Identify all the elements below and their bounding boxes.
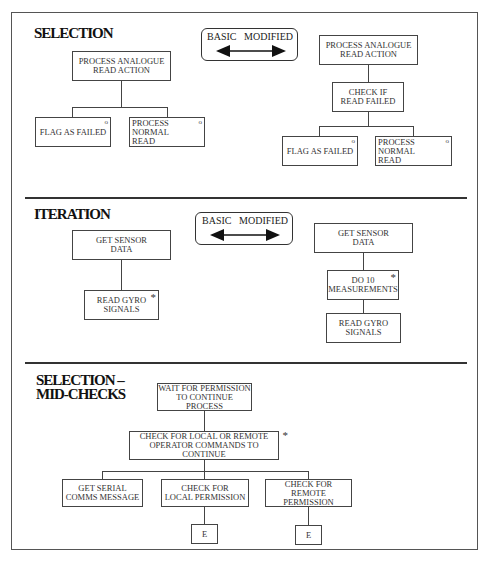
connector <box>102 471 103 479</box>
box-label: READ GYRO SIGNALS <box>97 296 146 314</box>
box-label: GET SERIAL COMMS MESSAGE <box>66 484 139 502</box>
legend-basic-label: BASIC <box>202 215 231 226</box>
connector <box>368 112 369 126</box>
connector <box>308 471 309 479</box>
connector <box>204 460 205 471</box>
box-label: PROCESS NORMAL READ <box>132 119 204 146</box>
diagram-frame <box>11 12 478 550</box>
end-marker-remote-box: E <box>295 525 322 545</box>
box-label: GET SENSOR DATA <box>338 229 389 247</box>
iteration-asterisk-icon: * <box>283 430 289 440</box>
basic-modified-legend: BASIC MODIFIED <box>195 212 293 245</box>
connector <box>121 81 122 107</box>
box-label: CHECK FOR LOCAL OR REMOTE OPERATOR COMMA… <box>130 432 278 459</box>
modified-read-gyro-box: READ GYRO SIGNALS <box>326 313 401 343</box>
double-arrow-icon <box>210 229 280 241</box>
section-divider <box>25 197 467 199</box>
midchecks-heading-line2: MID-CHECKS <box>36 387 125 402</box>
check-remote-permission-box: CHECK FOR REMOTE PERMISSION <box>265 479 352 507</box>
box-label: E <box>306 531 311 540</box>
basic-get-sensor-box: GET SENSOR DATA <box>72 230 171 260</box>
connector <box>72 107 73 117</box>
iteration-asterisk-icon: * <box>391 272 397 282</box>
check-operator-commands-box: CHECK FOR LOCAL OR REMOTE OPERATOR COMMA… <box>129 431 279 460</box>
connector <box>204 507 205 524</box>
selection-circle-icon: o <box>352 138 356 145</box>
box-label: READ GYRO SIGNALS <box>339 319 388 337</box>
section-divider <box>25 362 467 364</box>
modified-get-sensor-box: GET SENSOR DATA <box>314 223 413 253</box>
connector <box>167 107 168 117</box>
modified-process-analogue-box: PROCESS ANALOGUE READ ACTION <box>319 35 418 65</box>
connector <box>204 471 205 479</box>
box-label: E <box>202 530 207 539</box>
connector <box>363 253 364 270</box>
connector <box>319 126 414 127</box>
basic-modified-legend: BASIC MODIFIED <box>201 28 298 61</box>
connector <box>368 65 369 82</box>
selection-heading: SELECTION <box>34 26 113 41</box>
legend-modified-label: MODIFIED <box>244 31 293 42</box>
selection-circle-icon: o <box>105 119 109 126</box>
connector <box>204 411 205 431</box>
double-arrow-icon <box>216 45 286 57</box>
modified-process-normal-box: PROCESS NORMAL READo <box>375 136 452 166</box>
box-label: PROCESS ANALOGUE READ ACTION <box>79 57 165 75</box>
connector <box>102 471 309 472</box>
connector <box>72 107 168 108</box>
selection-circle-icon: o <box>199 119 203 126</box>
wait-for-permission-box: WAIT FOR PERMISSION TO CONTINUE PROCESS <box>157 383 252 411</box>
box-label: FLAG AS FAILED <box>40 128 106 137</box>
check-local-permission-box: CHECK FOR LOCAL PERMISSION <box>161 479 249 507</box>
box-label: WAIT FOR PERMISSION TO CONTINUE PROCESS <box>158 384 251 411</box>
basic-read-gyro-box: READ GYRO SIGNALS* <box>84 290 159 320</box>
box-label: DO 10 MEASUREMENTS <box>328 276 397 294</box>
connector <box>308 507 309 525</box>
connector <box>363 300 364 313</box>
box-label: CHECK FOR LOCAL PERMISSION <box>165 484 246 502</box>
basic-process-analogue-box: PROCESS ANALOGUE READ ACTION <box>72 51 171 81</box>
get-serial-comms-box: GET SERIAL COMMS MESSAGE <box>62 479 143 507</box>
modified-check-read-failed-box: CHECK IF READ FAILED <box>332 82 404 112</box>
modified-flag-failed-box: FLAG AS FAILEDo <box>282 136 358 166</box>
basic-flag-failed-box: FLAG AS FAILEDo <box>35 117 111 147</box>
iteration-heading: ITERATION <box>34 207 110 222</box>
box-label: CHECK IF READ FAILED <box>341 88 396 106</box>
basic-process-normal-box: PROCESS NORMAL READo <box>129 117 205 147</box>
box-label: GET SENSOR DATA <box>96 236 147 254</box>
connector <box>413 126 414 136</box>
end-marker-local-box: E <box>191 524 218 544</box>
iteration-asterisk-icon: * <box>151 292 157 302</box>
connector <box>319 126 320 136</box>
modified-do-10-measurements-box: DO 10 MEASUREMENTS* <box>327 270 399 300</box>
box-label: PROCESS ANALOGUE READ ACTION <box>326 41 412 59</box>
selection-circle-icon: o <box>446 138 450 145</box>
box-label: PROCESS NORMAL READ <box>378 138 451 165</box>
connector <box>121 260 122 290</box>
box-label: FLAG AS FAILED <box>287 147 353 156</box>
box-label: CHECK FOR REMOTE PERMISSION <box>266 480 351 507</box>
legend-basic-label: BASIC <box>207 31 236 42</box>
legend-modified-label: MODIFIED <box>239 215 288 226</box>
